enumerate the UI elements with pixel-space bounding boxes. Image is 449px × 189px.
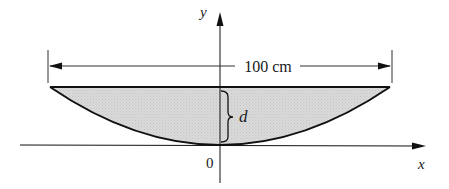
dimension-arrow-right-icon xyxy=(378,63,391,70)
origin-label: 0 xyxy=(206,155,214,171)
y-axis-label: y xyxy=(198,4,207,20)
parabolic-dish-diagram: 100 cm d y x 0 xyxy=(0,0,449,189)
x-axis-label: x xyxy=(417,156,425,172)
depth-label: d xyxy=(239,107,248,126)
dimension-arrow-left-icon xyxy=(49,63,62,70)
x-axis xyxy=(20,145,418,146)
x-axis-arrow-icon xyxy=(412,143,426,150)
y-axis-arrow-icon xyxy=(217,12,224,26)
width-dimension-label: 100 cm xyxy=(244,58,292,75)
